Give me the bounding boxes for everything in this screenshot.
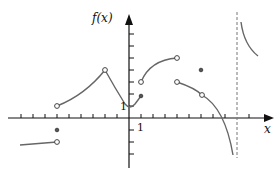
open-point [175, 80, 180, 85]
open-point [55, 140, 60, 145]
open-point [103, 68, 108, 73]
open-point [175, 56, 180, 61]
open-point [55, 104, 60, 109]
x-axis-label: x [264, 122, 271, 136]
y-axis-arrow-icon [125, 14, 133, 25]
curve-piece-5 [241, 22, 258, 56]
curve-piece-1 [20, 142, 57, 145]
y-tick-label: 1 [120, 100, 127, 113]
y-ticks [129, 34, 134, 154]
y-axis-label: f(x) [91, 11, 113, 25]
filled-point [139, 94, 143, 98]
open-point [139, 80, 144, 85]
filled-point [55, 128, 59, 132]
curve-piece-2a [57, 70, 105, 106]
curve-pieces [20, 22, 258, 155]
x-axis-arrow-icon [264, 114, 274, 122]
x-tick-label: 1 [137, 121, 144, 134]
curve-piece-3 [141, 58, 177, 82]
function-graph: f(x) x 1 1 [0, 0, 280, 175]
open-point [200, 93, 205, 98]
filled-point [199, 68, 203, 72]
